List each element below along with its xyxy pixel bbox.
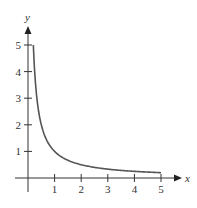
curve-line <box>33 45 161 173</box>
y-tick-label: 1 <box>16 145 22 157</box>
chart: x y 12345 12345 <box>0 0 197 208</box>
x-tick-label: 5 <box>158 183 164 195</box>
x-axis-arrow-icon <box>174 175 182 182</box>
x-tick-label: 1 <box>52 183 58 195</box>
x-axis-label: x <box>184 172 190 184</box>
y-tick-label: 4 <box>16 66 22 78</box>
y-tick-label: 3 <box>16 92 22 104</box>
x-ticks: 12345 <box>52 174 164 195</box>
x-tick-label: 3 <box>105 183 111 195</box>
y-tick-label: 5 <box>16 39 22 51</box>
y-axis-arrow-icon <box>25 26 32 34</box>
y-ticks: 12345 <box>16 39 33 157</box>
y-tick-label: 2 <box>16 119 22 131</box>
x-tick-label: 4 <box>132 183 138 195</box>
x-tick-label: 2 <box>78 183 84 195</box>
y-axis-label: y <box>24 11 30 23</box>
